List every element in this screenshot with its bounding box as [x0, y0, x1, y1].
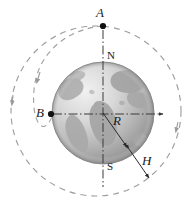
diagram-canvas	[0, 0, 191, 208]
label-orbit-altitude: H	[142, 154, 151, 167]
orbit-direction-arrow-left	[12, 95, 13, 104]
label-south-pole: S	[107, 161, 113, 172]
point-a-dot	[100, 23, 106, 29]
orbit-direction-arrow-right	[176, 122, 178, 131]
point-b-dot	[48, 111, 54, 117]
earth-orbit-diagram: A B N S R H	[0, 0, 191, 208]
label-earth-radius: R	[113, 114, 121, 127]
label-point-b: B	[36, 106, 44, 119]
label-north-pole: N	[107, 50, 115, 61]
inner-orbit-direction-arrow	[37, 72, 40, 82]
label-point-a: A	[96, 6, 104, 19]
